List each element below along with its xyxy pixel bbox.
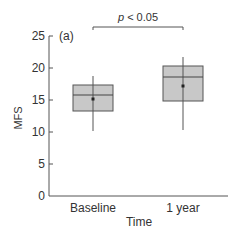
- y-tick-0: 0: [38, 189, 45, 203]
- mean-marker: [92, 98, 95, 101]
- y-tick-10: 10: [32, 125, 46, 139]
- y-tick-20: 20: [32, 61, 46, 75]
- y-tick-labels: 25 20 15 10 5 0: [32, 29, 46, 203]
- significance-bracket: [93, 27, 183, 30]
- panel-label: (a): [59, 29, 74, 43]
- mean-marker: [182, 85, 185, 88]
- y-tick-25: 25: [32, 29, 46, 43]
- box-1-year: [163, 57, 203, 130]
- y-tick-5: 5: [38, 157, 45, 171]
- x-axis-label: Time: [126, 215, 153, 229]
- p-value-annotation: p < 0.05: [117, 11, 158, 23]
- x-category-1-year: 1 year: [166, 201, 199, 215]
- y-tick-15: 15: [32, 93, 46, 107]
- x-category-baseline: Baseline: [70, 201, 116, 215]
- box-plot: 25 20 15 10 5 0 MFS (a) p < 0.05 Baselin…: [0, 0, 241, 235]
- box-baseline: [73, 76, 113, 131]
- y-ticks: [49, 36, 53, 164]
- y-axis-label: MFS: [12, 106, 24, 129]
